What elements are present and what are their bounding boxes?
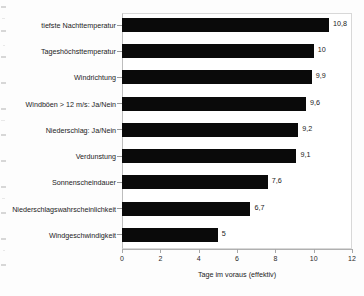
- scan-speck: [3, 250, 5, 251]
- bar-value-label: 6,7: [254, 201, 264, 215]
- x-tick: [160, 249, 161, 253]
- bar-row: 10,8: [122, 13, 352, 38]
- bar-value-label: 10: [318, 43, 326, 57]
- bar: [122, 228, 218, 242]
- x-tick-label: 12: [348, 255, 356, 262]
- category-label: tiefste Nachttemperatur: [41, 21, 122, 30]
- category-label: Niederschlag: Ja/Nein: [46, 126, 122, 135]
- bars-layer: 10,8109,99,69,29,17,66,75: [122, 13, 352, 249]
- x-tick-label: 10: [310, 255, 318, 262]
- bar: [122, 18, 329, 32]
- category-label-row: Sonnenscheindauer: [0, 170, 122, 195]
- x-tick: [199, 249, 200, 253]
- chart-page: tiefste NachttemperaturTageshöchsttemper…: [0, 0, 364, 296]
- category-label: Niederschlagswahrscheinlichkeit: [12, 205, 122, 214]
- bar-row: 6,7: [122, 197, 352, 222]
- x-tick: [275, 249, 276, 253]
- bar: [122, 44, 314, 58]
- category-label-row: tiefste Nachttemperatur: [0, 13, 122, 38]
- bar: [122, 97, 306, 111]
- bar-value-label: 9,9: [316, 69, 326, 83]
- category-label-row: Windrichtung: [0, 65, 122, 90]
- bar-row: 5: [122, 223, 352, 248]
- bar: [122, 70, 312, 84]
- category-label-row: Niederschlag: Ja/Nein: [0, 118, 122, 143]
- category-label: Tageshöchsttemperatur: [41, 47, 122, 56]
- x-tick-label: 2: [158, 255, 162, 262]
- bar-row: 9,6: [122, 92, 352, 117]
- bar: [122, 123, 298, 137]
- category-label: Verdunstung: [76, 152, 122, 161]
- category-label: Sonnenscheindauer: [52, 178, 122, 187]
- bar-row: 7,6: [122, 170, 352, 195]
- x-tick-label: 8: [273, 255, 277, 262]
- category-label-row: Tageshöchsttemperatur: [0, 39, 122, 64]
- bar-value-label: 9,2: [302, 122, 312, 136]
- bar-value-label: 5: [222, 227, 226, 241]
- bar-value-label: 9,6: [310, 96, 320, 110]
- category-axis: tiefste NachttemperaturTageshöchsttemper…: [0, 13, 122, 249]
- x-tick-label: 0: [120, 255, 124, 262]
- x-tick: [122, 249, 123, 253]
- x-tick: [352, 249, 353, 253]
- bar-row: 10: [122, 39, 352, 64]
- bar-value-label: 7,6: [272, 174, 282, 188]
- category-label-row: Windböen > 12 m/s: Ja/Nein: [0, 92, 122, 117]
- x-tick-label: 6: [235, 255, 239, 262]
- scan-speck: [1, 264, 6, 266]
- category-label: Windgeschwindigkeit: [49, 231, 122, 240]
- bar-row: 9,1: [122, 144, 352, 169]
- bar: [122, 175, 268, 189]
- category-label-row: Verdunstung: [0, 144, 122, 169]
- x-tick: [237, 249, 238, 253]
- x-axis-title: Tage im voraus (effektiv): [122, 270, 352, 279]
- bar-row: 9,9: [122, 65, 352, 90]
- bar: [122, 202, 250, 216]
- category-label: Windböen > 12 m/s: Ja/Nein: [26, 100, 123, 109]
- category-label-row: Windgeschwindigkeit: [0, 223, 122, 248]
- x-tick: [314, 249, 315, 253]
- bar: [122, 149, 296, 163]
- bar-value-label: 9,1: [300, 148, 310, 162]
- category-label-row: Niederschlagswahrscheinlichkeit: [0, 197, 122, 222]
- bar-value-label: 10,8: [333, 17, 347, 31]
- category-label: Windrichtung: [74, 73, 122, 82]
- x-tick-label: 4: [197, 255, 201, 262]
- scan-speck: [1, 6, 6, 8]
- bar-row: 9,2: [122, 118, 352, 143]
